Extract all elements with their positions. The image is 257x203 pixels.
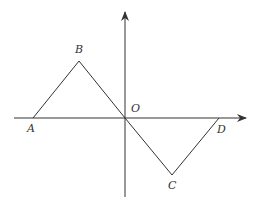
point-label-d: D [216, 123, 226, 136]
point-label-b: B [74, 43, 83, 56]
diagram-canvas: A B O C D [0, 0, 257, 203]
graph-svg: A B O C D [0, 0, 257, 203]
point-label-o: O [131, 102, 140, 115]
point-label-a: A [26, 122, 35, 135]
point-label-c: C [168, 179, 177, 192]
